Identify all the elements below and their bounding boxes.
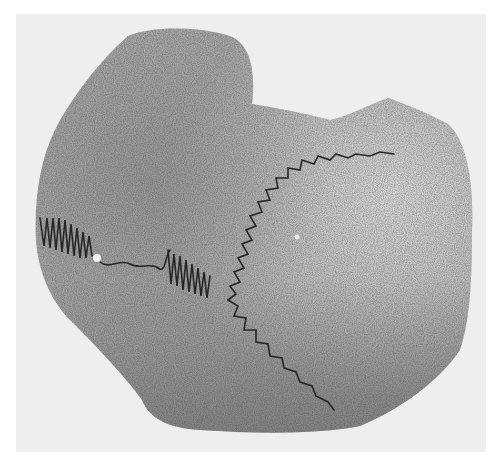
highlight-speck — [93, 254, 101, 262]
skull-fragment-image — [0, 0, 503, 463]
photo-frame — [0, 0, 503, 463]
bone-surface — [0, 0, 503, 463]
highlight-speck — [295, 235, 300, 240]
